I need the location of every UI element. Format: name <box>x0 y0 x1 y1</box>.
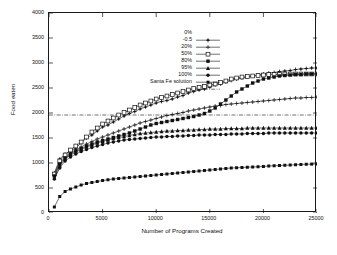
y-tick-label: 3500 <box>18 34 44 40</box>
y-tick-label: 1000 <box>18 159 44 165</box>
legend-item-key <box>195 36 221 42</box>
x-tick-label: 15000 <box>189 215 229 221</box>
y-tick-label: 3000 <box>18 59 44 65</box>
legend-item-label: 0% <box>109 29 195 35</box>
x-axis-title: Number of Programs Created <box>48 227 316 234</box>
x-tick-label: 25000 <box>296 215 336 221</box>
legend-item-label: -0.5 <box>109 36 195 42</box>
legend-item: 0% <box>109 29 221 35</box>
legend-item-key <box>195 57 221 63</box>
legend-item-label: Santa Fe solution <box>109 78 195 84</box>
x-tick-label: 10000 <box>135 215 175 221</box>
series-50- <box>53 72 317 177</box>
chart-legend: 0%-0.520%50%80%95%100%Santa Fe solution <box>109 29 221 85</box>
legend-item: 95% <box>109 64 221 70</box>
legend-item: 80% <box>109 57 221 63</box>
legend-item: -0.5 <box>109 36 221 42</box>
legend-item-label: 80% <box>109 57 195 63</box>
legend-item: 50% <box>109 50 221 56</box>
series-95- <box>53 131 317 180</box>
y-tick-label: 2500 <box>18 84 44 90</box>
legend-item-key <box>195 71 221 77</box>
plot-area: 0%-0.520%50%80%95%100%Santa Fe solution <box>48 12 316 212</box>
x-tick-label: 5000 <box>82 215 122 221</box>
y-tick-label: 500 <box>18 184 44 190</box>
y-tick-label: 1500 <box>18 134 44 140</box>
legend-item: Santa Fe solution <box>109 78 221 84</box>
y-tick-label: 2000 <box>18 109 44 115</box>
legend-item-key <box>195 29 221 35</box>
legend-item-label: 20% <box>109 43 195 49</box>
legend-item-key <box>195 50 221 56</box>
y-axis-tick-labels: 05001000150020002500300035004000 <box>14 12 44 212</box>
figure-chart: 05001000150020002500300035004000 Food ea… <box>0 0 337 255</box>
legend-item-label: 100% <box>109 71 195 77</box>
x-tick-label: 20000 <box>242 215 282 221</box>
legend-item: 20% <box>109 43 221 49</box>
legend-item-key <box>195 64 221 70</box>
x-tick-label: 0 <box>28 215 68 221</box>
legend-item-key <box>195 78 221 84</box>
legend-item-label: 50% <box>109 50 195 56</box>
series-20- <box>52 72 317 176</box>
legend-item-key <box>195 43 221 49</box>
series-100- <box>53 163 317 209</box>
x-axis-tick-labels: 0500010000150002000025000 <box>48 215 316 225</box>
legend-item-label: 95% <box>109 64 195 70</box>
y-tick-label: 4000 <box>18 9 44 15</box>
y-axis-title: Food eaten <box>9 70 16 130</box>
legend-item: 100% <box>109 71 221 77</box>
